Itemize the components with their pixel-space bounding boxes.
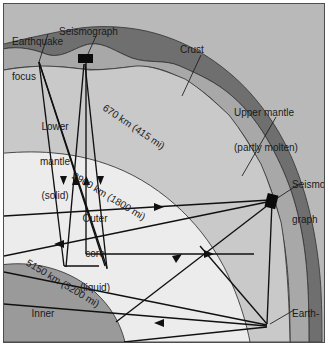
label-seismograph-right: Seismo- graph	[292, 156, 325, 248]
label-crust: Crust	[180, 44, 204, 56]
label-inner-core-line2: core	[14, 343, 72, 344]
figure-root: Earthquake focus Seismograph Crust Upper…	[0, 0, 328, 346]
label-inner-core-line1: Inner	[14, 308, 72, 320]
label-inner-core: Inner core (solid)	[14, 285, 72, 343]
label-lower-mantle-line1: Lower	[26, 121, 84, 133]
label-seismograph-right-line2: graph	[292, 214, 325, 226]
label-earthquake-focus-right-line1: Earth-	[292, 308, 325, 320]
label-earthquake-focus-right: Earth- quake focus	[292, 285, 325, 343]
label-earthquake-focus-top-line1: Earthquake	[12, 36, 102, 48]
label-earthquake-focus-right-line2: quake	[292, 343, 325, 344]
label-lower-mantle-line2: mantle	[26, 156, 84, 168]
figure-frame: Earthquake focus Seismograph Crust Upper…	[3, 3, 325, 343]
label-upper-mantle-line2: (partly molten)	[234, 142, 320, 154]
label-seismograph-right-line1: Seismo-	[292, 179, 325, 191]
label-earthquake-focus-top-line2: focus	[12, 71, 82, 83]
label-upper-mantle-line1: Upper mantle	[234, 107, 320, 119]
label-outer-core-line1: Outer	[66, 213, 124, 225]
label-seismograph-top: Seismograph	[59, 26, 118, 38]
diagram-plate: Earthquake focus Seismograph Crust Upper…	[4, 4, 324, 342]
label-outer-core-line2: core	[66, 248, 124, 260]
